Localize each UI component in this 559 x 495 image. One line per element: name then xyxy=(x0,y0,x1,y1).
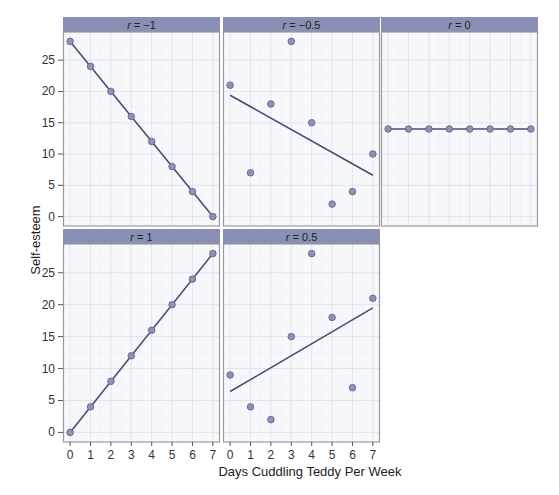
data-point xyxy=(349,384,356,391)
y-tick-label: 20 xyxy=(42,298,56,312)
data-point xyxy=(268,416,275,423)
data-point xyxy=(370,151,377,158)
data-point xyxy=(87,404,94,411)
x-tick-label: 6 xyxy=(349,448,356,462)
x-tick-label: 3 xyxy=(128,448,135,462)
y-tick-label: 15 xyxy=(42,116,56,130)
x-tick-label: 6 xyxy=(189,448,196,462)
x-tick-label: 1 xyxy=(87,448,94,462)
data-point xyxy=(466,126,473,133)
x-tick-label: 3 xyxy=(288,448,295,462)
facet-panel: r = −1 xyxy=(63,17,220,226)
data-point xyxy=(87,63,94,70)
data-point xyxy=(385,126,392,133)
facet-strip-label: r = 1 xyxy=(130,231,152,243)
data-point xyxy=(507,126,514,133)
data-point xyxy=(108,88,115,95)
data-point xyxy=(349,188,356,195)
data-point xyxy=(528,126,535,133)
faceted-scatter-chart: r = −1r = −0.5r = 0r = 1r = 0.5 05101520… xyxy=(0,0,559,495)
y-tick-label: 0 xyxy=(48,210,55,224)
data-point xyxy=(227,82,234,89)
x-tick-label: 2 xyxy=(268,448,275,462)
panels-group: r = −1r = −0.5r = 0r = 1r = 0.5 xyxy=(63,17,538,442)
x-tick-label: 4 xyxy=(148,448,155,462)
x-axes-group: 0123456701234567 xyxy=(67,442,377,462)
data-point xyxy=(210,213,217,220)
data-point xyxy=(247,170,254,177)
data-point xyxy=(405,126,412,133)
data-point xyxy=(128,113,135,120)
facet-panel: r = 0.5 xyxy=(223,229,380,442)
data-point xyxy=(210,250,217,257)
data-point xyxy=(370,295,377,302)
data-point xyxy=(247,404,254,411)
y-tick-label: 0 xyxy=(48,425,55,439)
data-point xyxy=(288,38,295,45)
data-point xyxy=(288,333,295,340)
data-point xyxy=(169,301,176,308)
x-tick-label: 2 xyxy=(108,448,115,462)
facet-strip-label: r = −1 xyxy=(127,19,156,31)
data-point xyxy=(148,327,155,334)
data-point xyxy=(67,429,74,436)
data-point xyxy=(329,314,336,321)
facet-panel: r = −0.5 xyxy=(223,17,380,226)
data-point xyxy=(108,378,115,385)
data-point xyxy=(128,352,135,359)
data-point xyxy=(227,372,234,379)
y-axes-group: 05101520250510152025 xyxy=(42,53,63,439)
facet-strip-label: r = 0.5 xyxy=(286,231,318,243)
data-point xyxy=(148,138,155,145)
y-tick-label: 10 xyxy=(42,362,56,376)
x-tick-label: 4 xyxy=(308,448,315,462)
x-tick-label: 0 xyxy=(227,448,234,462)
facet-strip-label: r = 0 xyxy=(448,19,470,31)
y-tick-label: 25 xyxy=(42,53,56,67)
facet-panel: r = 1 xyxy=(63,229,220,442)
y-axis-title: Self-esteem xyxy=(28,205,43,274)
x-tick-label: 5 xyxy=(169,448,176,462)
y-tick-label: 5 xyxy=(48,393,55,407)
y-tick-label: 20 xyxy=(42,84,56,98)
data-point xyxy=(189,276,196,283)
y-tick-label: 5 xyxy=(48,178,55,192)
data-point xyxy=(487,126,494,133)
data-point xyxy=(189,188,196,195)
x-tick-label: 5 xyxy=(329,448,336,462)
data-point xyxy=(169,163,176,170)
data-point xyxy=(446,126,453,133)
data-point xyxy=(67,38,74,45)
x-tick-label: 1 xyxy=(247,448,254,462)
y-tick-label: 10 xyxy=(42,147,56,161)
data-point xyxy=(308,250,315,257)
x-tick-label: 7 xyxy=(370,448,377,462)
y-tick-label: 25 xyxy=(42,266,56,280)
x-tick-label: 0 xyxy=(67,448,74,462)
data-point xyxy=(426,126,433,133)
data-point xyxy=(308,119,315,126)
data-point xyxy=(268,101,275,108)
facet-panel: r = 0 xyxy=(381,17,538,226)
y-tick-label: 15 xyxy=(42,330,56,344)
data-point xyxy=(329,201,336,208)
x-axis-title: Days Cuddling Teddy Per Week xyxy=(218,464,402,479)
facet-strip-label: r = −0.5 xyxy=(283,19,321,31)
x-tick-label: 7 xyxy=(210,448,217,462)
